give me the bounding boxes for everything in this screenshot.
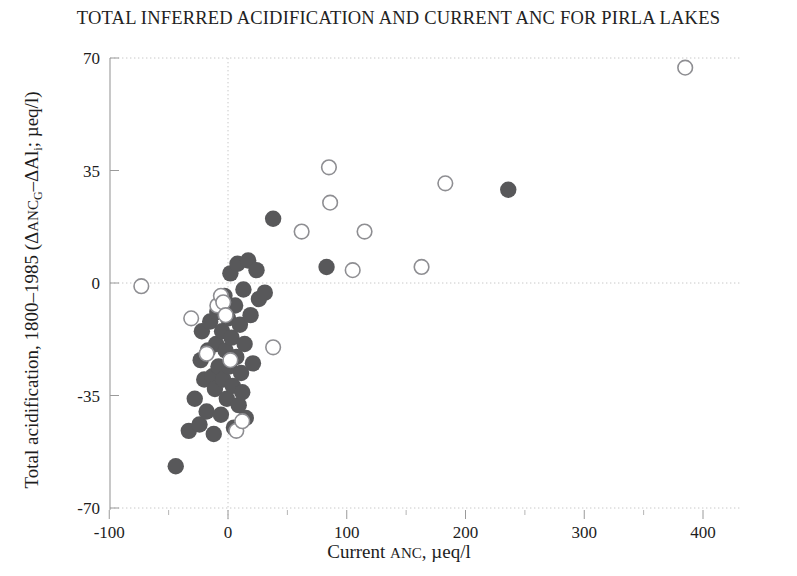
data-point-open bbox=[266, 340, 281, 355]
data-point-open bbox=[414, 260, 429, 275]
data-point-filled bbox=[168, 458, 184, 474]
data-point-filled bbox=[500, 182, 516, 198]
data-point-open bbox=[323, 195, 338, 210]
data-point-open bbox=[223, 353, 238, 368]
data-point-filled bbox=[265, 211, 281, 227]
data-point-filled bbox=[242, 307, 258, 323]
data-point-open bbox=[357, 224, 372, 239]
data-point-filled bbox=[213, 407, 229, 423]
data-point-filled bbox=[198, 403, 214, 419]
y-tick-label: 0 bbox=[92, 274, 101, 293]
data-point-filled bbox=[235, 281, 251, 297]
data-point-filled bbox=[318, 259, 334, 275]
x-tick-label: 0 bbox=[224, 523, 233, 542]
x-tick-label: 200 bbox=[453, 523, 479, 542]
data-point-filled bbox=[245, 355, 261, 371]
data-point-open bbox=[678, 60, 693, 75]
data-point-filled bbox=[206, 426, 222, 442]
scatter-plot: -70-3503570-1000100200300400 Current ANC… bbox=[0, 0, 797, 576]
x-tick-label: 300 bbox=[572, 523, 598, 542]
y-tick-label: 70 bbox=[83, 49, 100, 68]
data-point-open bbox=[184, 311, 199, 326]
gridlines bbox=[110, 58, 740, 522]
svg-text:Current ANC, µeq/l: Current ANC, µeq/l bbox=[327, 541, 470, 562]
x-axis-title: Current ANC, µeq/l bbox=[327, 541, 470, 562]
axis-ticks bbox=[109, 58, 703, 519]
data-points bbox=[134, 60, 692, 474]
chart-figure: TOTAL INFERRED ACIDIFICATION AND CURRENT… bbox=[0, 0, 797, 576]
svg-text:Total acidification, 1800–1985: Total acidification, 1800–1985 (ΔANCG–ΔA… bbox=[21, 92, 45, 489]
y-tick-label: -35 bbox=[77, 387, 100, 406]
data-point-filled bbox=[187, 391, 203, 407]
y-tick-label: 35 bbox=[83, 162, 100, 181]
data-point-filled bbox=[248, 262, 264, 278]
y-axis-title: Total acidification, 1800–1985 (ΔANCG–ΔA… bbox=[21, 92, 45, 489]
data-point-filled bbox=[234, 384, 250, 400]
x-tick-label: 400 bbox=[690, 523, 716, 542]
y-tick-label: -70 bbox=[77, 499, 100, 518]
data-point-open bbox=[438, 176, 453, 191]
x-tick-label: -100 bbox=[94, 523, 125, 542]
data-point-open bbox=[235, 414, 250, 429]
data-point-open bbox=[218, 308, 233, 323]
data-point-open bbox=[134, 279, 149, 294]
data-point-open bbox=[199, 346, 214, 361]
data-point-filled bbox=[257, 284, 273, 300]
data-point-open bbox=[345, 263, 360, 278]
data-point-open bbox=[294, 224, 309, 239]
data-point-open bbox=[322, 160, 337, 175]
x-tick-label: 100 bbox=[334, 523, 360, 542]
data-point-filled bbox=[236, 336, 252, 352]
